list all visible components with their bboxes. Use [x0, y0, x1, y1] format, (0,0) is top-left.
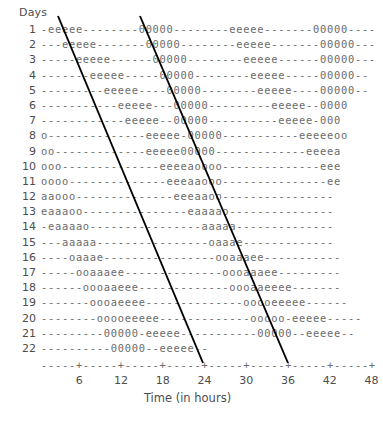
actogram-row: 4-------eeeee-----00000--------eeeee----…	[0, 68, 375, 83]
row-day-label: 16	[8, 250, 36, 265]
row-activity-pattern: -----ooaaaee--------------oooaaaee------…	[41, 265, 341, 280]
actogram-row: 11oooo--------------eeeaaooo------------…	[0, 174, 375, 189]
actogram-row: 8o--------------eeeee-00000-----------ee…	[0, 128, 375, 143]
actogram-row: 14-eaaaao----------------aaaaa----------…	[0, 219, 375, 234]
actogram-row: 7------------eeeee--00000----------eeeee…	[0, 113, 375, 128]
actogram-row: 21---------00000-eeeee-----------00000--…	[0, 326, 375, 341]
row-day-label: 1	[8, 22, 36, 37]
actogram-row: 9oo-------------eeeee00000-------------e…	[0, 144, 375, 159]
row-activity-pattern: ---------eeeee----00000--------eeeee----…	[41, 83, 369, 98]
x-tick-label: 18	[150, 374, 176, 387]
row-day-label: 2	[8, 37, 36, 52]
x-axis-tick-labels: 612182430364248	[0, 374, 375, 390]
row-day-label: 4	[8, 68, 36, 83]
x-tick-label: 42	[317, 374, 343, 387]
row-day-label: 19	[8, 295, 36, 310]
row-day-label: 7	[8, 113, 36, 128]
row-day-label: 18	[8, 280, 36, 295]
row-day-label: 10	[8, 159, 36, 174]
actogram-row: 16----oaaae----------------ooaaaee------…	[0, 250, 375, 265]
row-activity-pattern: eaaaoo---------------eaaaao-------------…	[41, 204, 334, 219]
actogram-row: 12aaooo--------------eeeaaoo------------…	[0, 189, 375, 204]
row-activity-pattern: -----------eeeee---00000---------eeeee--…	[41, 98, 348, 113]
row-activity-pattern: ------oooaaeee-------------oooaaeeee----…	[41, 280, 341, 295]
row-day-label: 11	[8, 174, 36, 189]
row-activity-pattern: -------oooaeeee--------------ooooeeeee--…	[41, 295, 348, 310]
row-activity-pattern: ---aaaaa----------------oaaae-----------…	[41, 235, 334, 250]
x-tick-label: 48	[359, 374, 383, 387]
row-day-label: 21	[8, 326, 36, 341]
row-activity-pattern: ooo--------------eeeeaoooo--------------…	[41, 159, 341, 174]
x-axis-tick-row: -----+-----+-----+-----+-----+-----+----…	[41, 359, 376, 371]
x-tick-label: 30	[233, 374, 259, 387]
y-axis-title: Days	[19, 6, 47, 19]
row-activity-pattern: ---eeeee-------00000--------eeeee-------…	[41, 37, 376, 52]
actogram-row: 15---aaaaa----------------oaaae---------…	[0, 235, 375, 250]
row-activity-pattern: -------eeeee-----00000--------eeeee-----…	[41, 68, 369, 83]
row-activity-pattern: ---------00000-eeeee-----------00000--ee…	[41, 326, 355, 341]
row-activity-pattern: -----eeeee------00000--------eeeee------…	[41, 52, 376, 67]
row-activity-pattern: -eeeee--------00000--------eeeee-------0…	[41, 22, 376, 37]
actogram-row: 3-----eeeee------00000--------eeeee-----…	[0, 52, 375, 67]
row-activity-pattern: -eaaaao----------------aaaaa------------…	[41, 219, 334, 234]
row-activity-pattern: ------------eeeee--00000----------eeeee-…	[41, 113, 341, 128]
row-day-label: 6	[8, 98, 36, 113]
actogram-row: 22----------00000--eeeee--	[0, 341, 375, 356]
actogram-row: 20--------ooooeeeee-------------ooooo-ee…	[0, 311, 375, 326]
row-activity-pattern: ----oaaae----------------ooaaaee--------…	[41, 250, 341, 265]
actogram-row: 19-------oooaeeee--------------ooooeeeee…	[0, 295, 375, 310]
row-day-label: 3	[8, 52, 36, 67]
actogram-row: 13eaaaoo---------------eaaaao-----------…	[0, 204, 375, 219]
actogram-row: 10ooo--------------eeeeaoooo------------…	[0, 159, 375, 174]
row-activity-pattern: --------ooooeeeee-------------ooooo-eeee…	[41, 311, 362, 326]
actogram-row: 18------oooaaeee-------------oooaaeeee--…	[0, 280, 375, 295]
row-day-label: 12	[8, 189, 36, 204]
row-activity-pattern: oo-------------eeeee00000-------------ee…	[41, 144, 341, 159]
row-activity-pattern: aaooo--------------eeeaaoo--------------…	[41, 189, 334, 204]
row-day-label: 14	[8, 219, 36, 234]
x-tick-label: 36	[275, 374, 301, 387]
row-day-label: 20	[8, 311, 36, 326]
row-activity-pattern: oooo--------------eeeaaooo--------------…	[41, 174, 341, 189]
actogram-plot-area: 1-eeeee--------00000--------eeeee-------…	[0, 22, 375, 356]
actogram-row: 6-----------eeeee---00000---------eeeee-…	[0, 98, 375, 113]
actogram-row: 2---eeeee-------00000--------eeeee------…	[0, 37, 375, 52]
actogram-row: 17-----ooaaaee--------------oooaaaee----…	[0, 265, 375, 280]
x-tick-label: 12	[108, 374, 134, 387]
row-day-label: 17	[8, 265, 36, 280]
row-day-label: 5	[8, 83, 36, 98]
x-tick-label: 6	[66, 374, 92, 387]
row-activity-pattern: o--------------eeeee-00000-----------eee…	[41, 128, 348, 143]
row-day-label: 15	[8, 235, 36, 250]
row-day-label: 8	[8, 128, 36, 143]
row-day-label: 9	[8, 144, 36, 159]
x-tick-label: 24	[192, 374, 218, 387]
row-activity-pattern: ----------00000--eeeee--	[41, 341, 208, 356]
actogram-row: 1-eeeee--------00000--------eeeee-------…	[0, 22, 375, 37]
actogram-row: 5---------eeeee----00000--------eeeee---…	[0, 83, 375, 98]
row-day-label: 22	[8, 341, 36, 356]
x-axis-title: Time (in hours)	[0, 391, 375, 405]
row-day-label: 13	[8, 204, 36, 219]
